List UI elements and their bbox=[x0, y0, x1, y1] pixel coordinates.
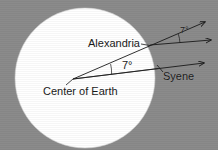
angle-arc-alexandria bbox=[178, 34, 180, 43]
diagram-canvas: Alexandria Syene Center of Earth 7° 7° bbox=[0, 0, 218, 150]
label-angle-at-center: 7° bbox=[122, 60, 133, 71]
label-alexandria: Alexandria bbox=[88, 38, 140, 49]
earth-circle bbox=[15, 8, 155, 148]
label-center-of-earth: Center of Earth bbox=[43, 86, 118, 97]
sun-ray-at-alexandria bbox=[150, 40, 211, 45]
label-angle-at-alexandria: 7° bbox=[180, 26, 189, 35]
label-syene: Syene bbox=[163, 71, 194, 82]
